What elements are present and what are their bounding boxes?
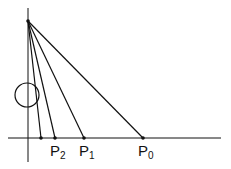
point-p0 [141, 136, 145, 140]
ray-to-p0 [28, 21, 143, 138]
ray-to-p1 [28, 21, 84, 138]
point-p1 [82, 136, 86, 140]
label-p1: P1 [79, 142, 95, 161]
ray-to-point-3 [28, 21, 41, 138]
point-p2 [53, 136, 57, 140]
diagram-canvas: P2 P1 P0 [0, 0, 231, 169]
ray-to-p2 [28, 21, 55, 138]
label-p0: P0 [138, 142, 154, 161]
point-unlabeled [39, 136, 43, 140]
label-p2: P2 [50, 142, 66, 161]
